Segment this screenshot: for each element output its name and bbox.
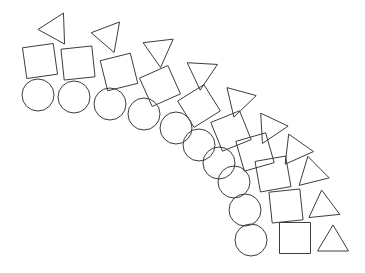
shape-arc-svg bbox=[0, 0, 365, 273]
figure-canvas bbox=[0, 0, 365, 273]
